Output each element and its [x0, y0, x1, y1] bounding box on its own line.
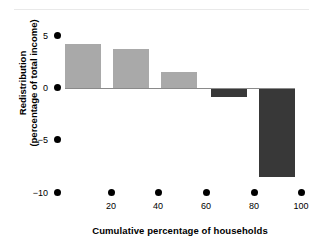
x-tick-marker-40: [155, 189, 162, 196]
y-tick-marker-5: [54, 32, 61, 39]
x-tick-marker-20: [108, 189, 115, 196]
header-rule: [14, 9, 309, 10]
x-tick-label-20: 20: [91, 202, 131, 211]
x-tick-label-60: 60: [186, 202, 226, 211]
y-tick-marker-neg10: [54, 189, 61, 196]
y-axis-title-line-1: Redistribution: [17, 3, 28, 163]
bar-quintile-5: [259, 89, 295, 177]
y-tick-label-neg10: −10: [16, 189, 48, 198]
x-tick-label-40: 40: [138, 202, 178, 211]
plot-area: [65, 30, 295, 198]
bar-quintile-2: [113, 49, 149, 88]
x-tick-marker-100: [298, 189, 305, 196]
y-axis-title-line-2: (percentage of total income): [28, 3, 39, 163]
y-tick-marker-0: [54, 84, 61, 91]
x-axis-title: Cumulative percentage of households: [50, 225, 310, 236]
bar-quintile-1: [65, 44, 101, 88]
y-axis-title: Redistribution (percentage of total inco…: [17, 3, 39, 163]
x-tick-label-100: 100: [281, 202, 321, 211]
x-tick-marker-60: [203, 189, 210, 196]
bar-quintile-3: [161, 72, 197, 88]
x-tick-marker-80: [251, 189, 258, 196]
x-tick-label-80: 80: [234, 202, 274, 211]
y-tick-marker-neg5: [54, 136, 61, 143]
chart-figure: 5 0 −5 −10 Redistribution (percentage of…: [0, 0, 321, 246]
bar-quintile-4: [211, 89, 247, 97]
